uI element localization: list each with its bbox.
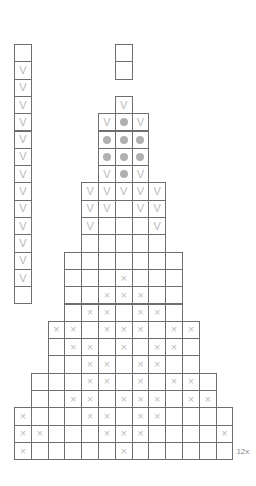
chart-cell: × bbox=[182, 321, 200, 339]
chart-cell: × bbox=[165, 321, 183, 339]
chart-cell bbox=[48, 425, 66, 443]
chart-cell: × bbox=[98, 425, 116, 443]
chart-cell: V bbox=[81, 182, 99, 200]
chart-cell: × bbox=[14, 407, 32, 425]
chart-cell bbox=[64, 304, 82, 322]
chart-cell: × bbox=[14, 425, 32, 443]
x-stitch-icon: × bbox=[154, 307, 160, 318]
v-stitch-icon: V bbox=[19, 273, 26, 284]
chart-cell bbox=[115, 355, 133, 373]
x-stitch-icon: × bbox=[20, 446, 26, 457]
chart-cell bbox=[115, 61, 133, 79]
chart-cell: × bbox=[132, 355, 150, 373]
chart-cell: × bbox=[115, 442, 133, 460]
chart-cell: V bbox=[98, 200, 116, 218]
chart-cell bbox=[132, 338, 150, 356]
chart-cell: × bbox=[132, 373, 150, 391]
chart-cell-left-column: V bbox=[14, 131, 32, 149]
chart-cell bbox=[182, 407, 200, 425]
chart-cell: × bbox=[148, 338, 166, 356]
chart-cell: V bbox=[148, 217, 166, 235]
chart-cell bbox=[132, 217, 150, 235]
x-stitch-icon: × bbox=[104, 307, 110, 318]
v-stitch-icon: V bbox=[19, 221, 26, 232]
chart-cell: V bbox=[132, 113, 150, 131]
chart-cell bbox=[216, 407, 234, 425]
x-stitch-icon: × bbox=[120, 273, 126, 284]
chart-cell-left-column: V bbox=[14, 182, 32, 200]
chart-cell bbox=[148, 442, 166, 460]
x-stitch-icon: × bbox=[20, 428, 26, 439]
v-stitch-icon: V bbox=[103, 169, 110, 180]
x-stitch-icon: × bbox=[87, 359, 93, 370]
chart-cell bbox=[148, 373, 166, 391]
chart-cell bbox=[48, 390, 66, 408]
chart-cell bbox=[81, 321, 99, 339]
chart-cell: × bbox=[115, 286, 133, 304]
x-stitch-icon: × bbox=[188, 324, 194, 335]
chart-cell: × bbox=[64, 338, 82, 356]
chart-cell bbox=[182, 355, 200, 373]
chart-cell bbox=[64, 269, 82, 287]
chart-cell bbox=[148, 234, 166, 252]
chart-cell bbox=[81, 425, 99, 443]
chart-cell bbox=[182, 425, 200, 443]
x-stitch-icon: × bbox=[188, 376, 194, 387]
chart-cell: × bbox=[148, 304, 166, 322]
chart-cell: × bbox=[48, 321, 66, 339]
v-stitch-icon: V bbox=[154, 221, 161, 232]
v-stitch-icon: V bbox=[103, 186, 110, 197]
chart-cell: × bbox=[165, 373, 183, 391]
x-stitch-icon: × bbox=[104, 376, 110, 387]
dot-stitch-icon bbox=[120, 170, 128, 178]
chart-cell: × bbox=[132, 286, 150, 304]
chart-cell-left-column: V bbox=[14, 217, 32, 235]
chart-cell bbox=[115, 217, 133, 235]
chart-cell: × bbox=[81, 304, 99, 322]
chart-cell bbox=[165, 390, 183, 408]
chart-cell bbox=[31, 407, 49, 425]
v-stitch-icon: V bbox=[19, 238, 26, 249]
chart-cell bbox=[165, 442, 183, 460]
x-stitch-icon: × bbox=[36, 428, 42, 439]
x-stitch-icon: × bbox=[87, 307, 93, 318]
v-stitch-icon: V bbox=[19, 255, 26, 266]
x-stitch-icon: × bbox=[120, 428, 126, 439]
chart-cell: V bbox=[81, 200, 99, 218]
x-stitch-icon: × bbox=[104, 359, 110, 370]
v-stitch-icon: V bbox=[19, 65, 26, 76]
chart-cell bbox=[115, 44, 133, 62]
chart-cell bbox=[165, 425, 183, 443]
chart-cell: × bbox=[14, 442, 32, 460]
chart-cell bbox=[199, 373, 217, 391]
x-stitch-icon: × bbox=[137, 411, 143, 422]
chart-cell bbox=[199, 425, 217, 443]
dot-stitch-icon bbox=[103, 153, 111, 161]
x-stitch-icon: × bbox=[204, 394, 210, 405]
chart-cell: V bbox=[132, 200, 150, 218]
chart-cell: × bbox=[115, 338, 133, 356]
chart-cell bbox=[132, 442, 150, 460]
chart-cell: V bbox=[148, 200, 166, 218]
chart-cell bbox=[48, 373, 66, 391]
v-stitch-icon: V bbox=[19, 82, 26, 93]
chart-cell: V bbox=[98, 113, 116, 131]
chart-cell bbox=[148, 269, 166, 287]
chart-cell bbox=[115, 165, 133, 183]
chart-cell bbox=[81, 442, 99, 460]
x-stitch-icon: × bbox=[104, 290, 110, 301]
x-stitch-icon: × bbox=[70, 324, 76, 335]
chart-cell bbox=[98, 442, 116, 460]
x-stitch-icon: × bbox=[87, 394, 93, 405]
chart-cell: × bbox=[98, 304, 116, 322]
chart-cell bbox=[148, 286, 166, 304]
dot-stitch-icon bbox=[136, 153, 144, 161]
chart-cell bbox=[31, 390, 49, 408]
chart-cell: × bbox=[165, 338, 183, 356]
chart-cell-left-column: V bbox=[14, 200, 32, 218]
x-stitch-icon: × bbox=[221, 428, 227, 439]
chart-cell-left-column bbox=[14, 44, 32, 62]
x-stitch-icon: × bbox=[70, 342, 76, 353]
v-stitch-icon: V bbox=[19, 169, 26, 180]
chart-cell bbox=[148, 321, 166, 339]
